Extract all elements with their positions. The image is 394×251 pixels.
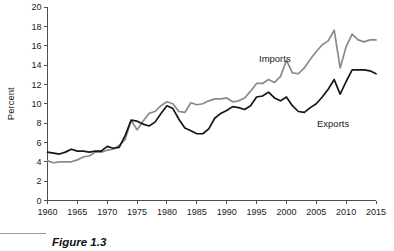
y-tick-label: 0 [36,196,41,206]
axis-frame [48,7,377,201]
y-tick-label: 20 [31,2,41,12]
y-tick-label: 10 [31,99,41,109]
series-line-imports [48,30,377,163]
chart-series [48,30,377,163]
x-tick-label: 1970 [97,207,117,217]
x-tick-label: 1995 [247,207,267,217]
x-tick-label: 2010 [336,207,356,217]
y-tick-label: 2 [36,176,41,186]
series-label-imports: Imports [259,53,291,64]
x-tick-label: 1965 [67,207,87,217]
y-tick-label: 6 [36,138,41,148]
chart-axes: 0246810121416182019601965197019751980198… [5,2,386,216]
x-tick-label: 2000 [276,207,296,217]
caption-block: Figure 1.3 [0,234,107,249]
chart-annotations: ImportsExports [259,53,349,129]
y-tick-label: 8 [36,118,41,128]
x-tick-label: 1990 [217,207,237,217]
x-tick-label: 2005 [306,207,326,217]
y-tick-label: 4 [36,157,41,167]
x-tick-label: 1985 [187,207,207,217]
figure-container: 0246810121416182019601965197019751980198… [0,0,394,251]
y-axis-title: Percent [5,87,16,120]
y-tick-label: 14 [31,60,41,70]
x-tick-label: 2015 [366,207,386,217]
y-tick-label: 18 [31,22,41,32]
series-label-exports: Exports [317,118,349,129]
x-tick-label: 1960 [37,207,57,217]
x-tick-label: 1975 [127,207,147,217]
x-tick-label: 1980 [157,207,177,217]
trade-share-line-chart: 0246810121416182019601965197019751980198… [0,0,394,251]
y-tick-label: 12 [31,80,41,90]
series-line-exports [48,70,377,154]
y-tick-label: 16 [31,41,41,51]
figure-caption: Figure 1.3 [52,236,107,248]
